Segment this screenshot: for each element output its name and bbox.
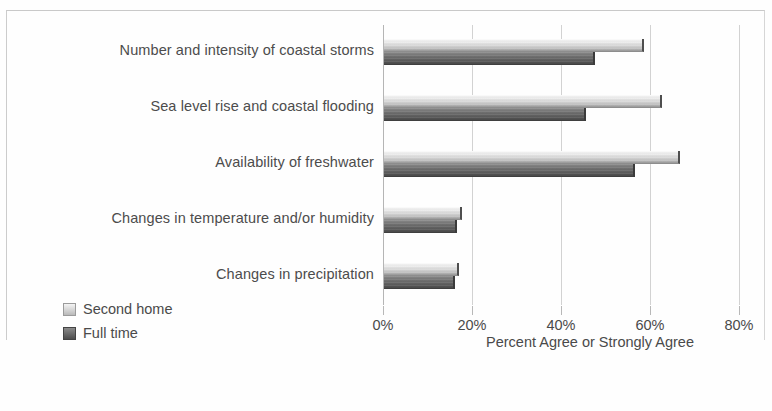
tick-mark-0% [383, 306, 384, 315]
bar-group: Availability of freshwater [383, 143, 739, 199]
tick-mark-80% [739, 306, 740, 315]
horizontal-bar-chart: Number and intensity of coastal stormsSe… [0, 0, 772, 411]
tick-label-40%: 40% [546, 317, 575, 333]
legend-label-second-home: Second home [83, 301, 172, 317]
bar-second-home [384, 263, 459, 276]
tick-label-0%: 0% [373, 317, 394, 333]
gridline-80% [739, 25, 740, 305]
category-label: Sea level rise and coastal flooding [150, 98, 374, 114]
category-label: Availability of freshwater [215, 154, 374, 170]
bar-full-time [384, 108, 586, 121]
bar-group: Sea level rise and coastal flooding [383, 87, 739, 143]
tick-mark-40% [561, 306, 562, 315]
tick-label-60%: 60% [635, 317, 664, 333]
tick-mark-20% [472, 306, 473, 315]
category-label: Changes in precipitation [216, 266, 374, 282]
tick-label-20%: 20% [457, 317, 486, 333]
plot-area: Number and intensity of coastal stormsSe… [383, 25, 739, 305]
legend-swatch-icon-full-time [63, 327, 76, 340]
chart-legend: Second home Full time [63, 297, 172, 345]
bar-second-home [384, 151, 680, 164]
legend-item-second-home: Second home [63, 297, 172, 321]
bar-group: Number and intensity of coastal storms [383, 31, 739, 87]
x-axis-title: Percent Agree or Strongly Agree [430, 334, 750, 350]
bar-second-home [384, 95, 662, 108]
bar-second-home [384, 207, 462, 220]
bar-full-time [384, 164, 635, 177]
bar-full-time [384, 220, 457, 233]
bar-group: Changes in precipitation [383, 255, 739, 311]
legend-item-full-time: Full time [63, 321, 172, 345]
legend-label-full-time: Full time [83, 325, 138, 341]
category-label: Number and intensity of coastal storms [120, 42, 374, 58]
bar-group: Changes in temperature and/or humidity [383, 199, 739, 255]
tick-mark-60% [650, 306, 651, 315]
category-label: Changes in temperature and/or humidity [111, 210, 374, 226]
bar-full-time [384, 52, 595, 65]
bar-second-home [384, 39, 644, 52]
tick-label-80%: 80% [724, 317, 753, 333]
legend-swatch-icon-second-home [63, 303, 76, 316]
bar-full-time [384, 276, 455, 289]
